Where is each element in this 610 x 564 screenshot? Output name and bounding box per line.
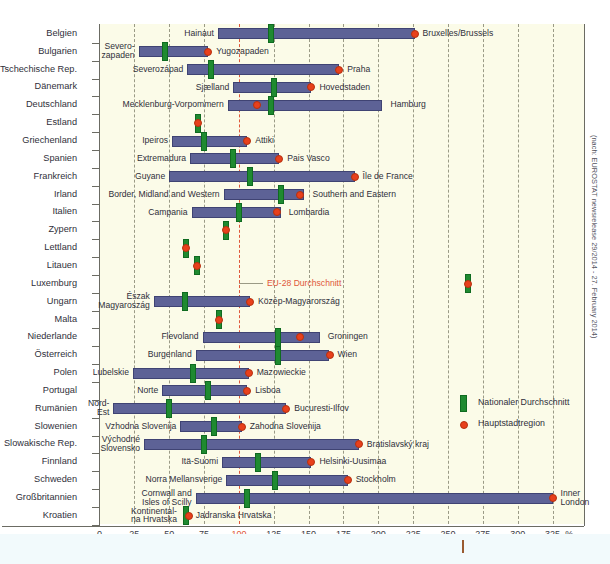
range-bar-finnland [222,457,311,468]
region-label-high-d-nemark: Hovedstaden [319,83,370,92]
region-label-high-schweden: Stockholm [356,475,396,484]
range-bar-frankreich [169,171,354,182]
y-axis-tick [92,239,99,240]
y-axis-tick [92,168,99,169]
y-axis-tick [92,471,99,472]
region-label-high-niederlande: Groningen [328,332,368,341]
national-average-marker-portugal [205,381,211,400]
range-bar-bulgarien [139,46,209,57]
range-bar-slowakische-rep- [144,439,359,450]
legend-label-national: Nationaler Durchschnitt [478,397,569,407]
range-bar-irland [224,189,305,200]
y-axis-tick [92,257,99,258]
chart-page: BelgienBulgarienTschechische Rep.Dänemar… [0,0,610,564]
capital-region-marker-luxemburg [464,280,472,288]
national-average-marker-irland [278,185,284,204]
source-note: (nach: EUROSTAT newsrelease 29/2014 - 27… [590,135,599,338]
region-label-low-italien: Campania [0,208,188,217]
y-axis-tick [92,453,99,454]
region-label-low-spanien: Extremadura [0,154,186,163]
y-axis-tick [92,132,99,133]
region-label-low-belgien: Hainaut [0,29,214,38]
national-average-marker-deutschland [268,96,274,115]
national-average-marker-polen [190,364,196,383]
country-label-luxemburg: Luxemburg [31,278,77,288]
region-label-high-spanien: Pais Vasco [287,154,329,163]
y-axis-tick [92,114,99,115]
y-axis-tick [92,293,99,294]
region-label-low-frankreich: Guyane [0,172,165,181]
region-label-low-bulgarien: Severo-zapaden [0,42,135,60]
country-label-litauen: Litauen [47,260,77,270]
capital-region-marker-kroatien [185,512,193,520]
national-average-marker--sterreich [275,346,281,365]
capital-region-marker-italien [273,208,281,216]
range-bar-rum-nien [113,403,286,414]
capital-region-marker-lettland [182,244,190,252]
country-label-zypern: Zypern [48,224,77,234]
region-label-low-portugal: Norte [0,386,158,395]
green-bar-icon [460,395,467,412]
region-label-high-bulgarien: Yugozapaden [216,47,269,56]
national-average-marker-d-nemark [271,78,277,97]
eu28-leader-line [239,283,263,284]
region-label-high-italien: Lombardia [289,208,330,217]
region-label-high-slowenien: Zahodna Slovenija [250,422,321,431]
gridline-275 [483,24,484,524]
y-axis-tick [92,150,99,151]
bottom-band [0,534,610,564]
bottom-marker [462,540,464,553]
right-axis-line [584,24,585,526]
national-average-marker-spanien [230,149,236,168]
region-label-low-irland: Border, Midland and Western [0,190,220,199]
capital-region-marker-tschechische-rep- [335,66,343,74]
region-label-high-slowakische-rep-: Bratislavský kraj [367,440,429,449]
region-label-low-griechenland: Ipeiros [0,136,168,145]
y-axis-tick [92,436,99,437]
y-axis-tick [92,275,99,276]
region-label-low-d-nemark: Sjælland [0,83,229,92]
capital-region-marker-ungarn [246,298,254,306]
region-label-low-ungarn: ÉszakMagyaroszág [0,292,150,310]
gridline-250 [448,24,449,524]
region-label-high-polen: Mazowieckie [257,368,306,377]
region-label-low-deutschland: Mecklenburg-Vorpommern [0,100,224,109]
region-label-low-kroatien: Kontinental-na Hrvatska [0,507,177,525]
y-axis-tick [92,186,99,187]
capital-region-marker-irland [296,191,304,199]
national-average-marker-slowenien [211,417,217,436]
y-axis-tick [92,346,99,347]
capital-region-marker-gro-britannien [549,494,557,502]
region-label-high-belgien: Bruxelles/Brussels [423,29,494,38]
national-average-marker-gro-britannien [244,489,250,508]
range-bar-schweden [226,475,347,486]
y-axis-tick [92,507,99,508]
national-average-marker-tschechische-rep- [208,60,214,79]
national-average-marker-finnland [255,453,261,472]
national-average-marker-schweden [272,471,278,490]
national-average-marker-belgien [268,24,274,43]
region-label-high-finnland: Helsinki-Uusimaa [319,457,386,466]
range-bar-ungarn [154,296,250,307]
y-axis-tick [92,79,99,80]
range-bar--sterreich [196,350,330,361]
range-bar-deutschland [228,100,383,111]
region-label-low-gro-britannien: Cornwall andIsles of Scilly [0,489,192,507]
national-average-marker-frankreich [247,167,253,186]
region-label-high-ungarn: Közép-Magyarország [258,297,340,306]
y-axis-tick [92,400,99,401]
region-label-low-schweden: Norra Mellansverige [0,475,222,484]
y-axis-tick [92,204,99,205]
capital-region-marker-belgien [411,30,419,38]
legend-label-capital: Hauptstadtregion [478,418,545,428]
national-average-marker-griechenland [201,132,207,151]
y-axis-tick [92,382,99,383]
gridline-300 [518,24,519,524]
capital-region-marker-litauen [193,262,201,270]
y-axis-tick [92,96,99,97]
region-label-high-portugal: Lisboa [255,386,280,395]
capital-region-marker-slowenien [238,423,246,431]
region-label-low-tschechische-rep-: Severozápad [0,65,183,74]
region-label-high-griechenland: Attiki [255,136,274,145]
region-label-high-tschechische-rep-: Praha [347,65,370,74]
